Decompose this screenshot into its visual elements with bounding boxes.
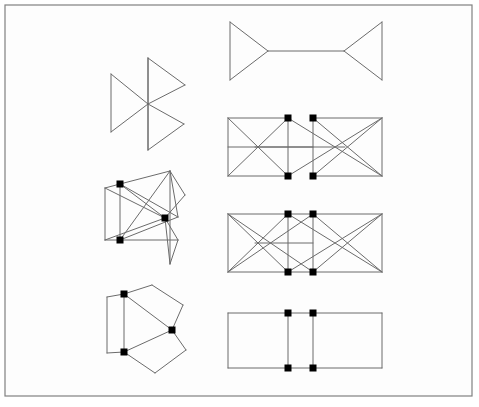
node-marker (310, 115, 317, 122)
node-marker (310, 211, 317, 218)
node-marker (310, 173, 317, 180)
node-marker (121, 291, 128, 298)
node-marker (310, 269, 317, 276)
node-marker (121, 349, 128, 356)
diagram-svg (0, 0, 479, 407)
node-marker (285, 310, 292, 317)
node-marker (310, 365, 317, 372)
node-marker (117, 237, 124, 244)
node-marker (285, 115, 292, 122)
node-marker (285, 269, 292, 276)
node-marker (310, 310, 317, 317)
node-marker (169, 327, 176, 334)
figure-canvas (0, 0, 479, 407)
node-marker (285, 211, 292, 218)
node-marker (162, 215, 169, 222)
node-marker (117, 181, 124, 188)
outer-border (5, 5, 472, 396)
node-marker (285, 173, 292, 180)
node-marker (285, 365, 292, 372)
